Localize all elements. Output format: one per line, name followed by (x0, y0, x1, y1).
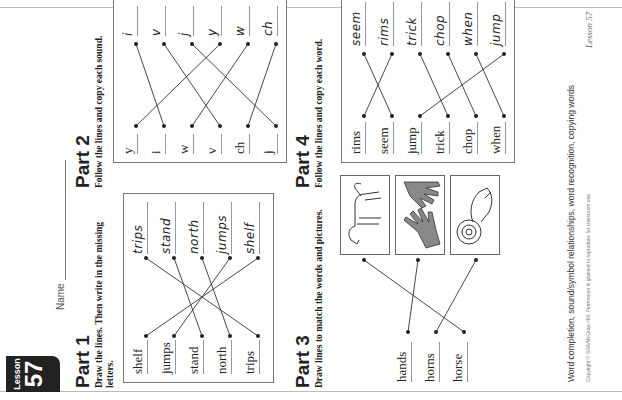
lesson-reference: Lesson 57 (584, 12, 594, 48)
part4-instructions: Follow the lines and copy each word. (314, 0, 325, 188)
skills-footer: Word completion, sound/symbol relationsh… (566, 85, 576, 382)
part4-connector-lines (342, 0, 514, 162)
worksheet-page: Lesson 57 Name Part 1 Draw the lines. Th… (0, 0, 622, 400)
part3-connector-lines (0, 0, 622, 400)
copyright-notice: Copyright © SRA/McGraw-Hill. Permission … (585, 193, 591, 382)
part4-box: rims seem jump trick chop when seem rims… (341, 0, 515, 163)
part4-title: Part 4 (292, 135, 314, 188)
